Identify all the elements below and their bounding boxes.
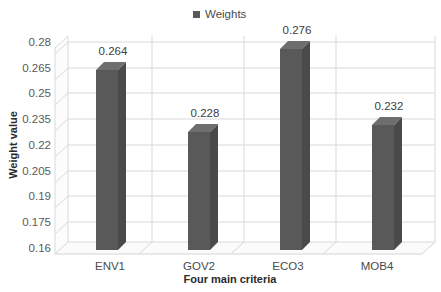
- x-tick-label-gov2: GOV2: [183, 260, 215, 272]
- y-tick-label: 0.205: [22, 165, 51, 177]
- legend[interactable]: Weights: [193, 8, 247, 20]
- y-tick-label: 0.25: [29, 87, 51, 99]
- bar-env1[interactable]: [96, 62, 126, 250]
- x-tick-label-env1: ENV1: [95, 260, 125, 272]
- y-axis-title: Weight value: [7, 111, 19, 179]
- bar-mob4[interactable]: [372, 117, 402, 250]
- bar-front-face: [96, 70, 118, 250]
- y-tick-label: 0.19: [29, 190, 51, 202]
- bar-front-face: [372, 125, 394, 250]
- y-tick-label: 0.265: [22, 62, 51, 74]
- y-axis-tick-labels: 0.28 0.265 0.25 0.235 0.22 0.205 0.19 0.…: [22, 36, 51, 254]
- chart-canvas: 0.264 0.228 0.276 0.232 0.28 0.265 0.25 …: [0, 0, 441, 292]
- bar-gov2[interactable]: [188, 124, 218, 250]
- bar-front-face: [280, 49, 302, 250]
- x-axis-category-labels: ENV1 GOV2 ECO3 MOB4: [95, 260, 394, 272]
- bar-side-face: [210, 124, 218, 250]
- x-tick-label-mob4: MOB4: [361, 260, 394, 272]
- y-tick-label: 0.16: [29, 242, 51, 254]
- y-tick-label: 0.22: [29, 139, 51, 151]
- data-label-env1: 0.264: [99, 45, 128, 57]
- bar-front-face: [188, 132, 210, 250]
- data-label-eco3: 0.276: [283, 24, 312, 36]
- y-tick-label: 0.175: [22, 216, 51, 228]
- left-side-wall: [55, 36, 68, 254]
- y-tick-label: 0.235: [22, 113, 51, 125]
- bar-side-face: [302, 41, 310, 250]
- bar-eco3[interactable]: [280, 41, 310, 250]
- x-axis-title: Four main criteria: [184, 273, 278, 285]
- x-tick-label-eco3: ECO3: [272, 260, 303, 272]
- bar-chart: 0.264 0.228 0.276 0.232 0.28 0.265 0.25 …: [0, 0, 441, 292]
- square-marker-icon: [193, 11, 200, 18]
- data-label-mob4: 0.232: [375, 100, 404, 112]
- y-tick-label: 0.28: [29, 36, 51, 48]
- legend-label-weights: Weights: [205, 8, 247, 20]
- bar-side-face: [118, 62, 126, 250]
- bar-side-face: [394, 117, 402, 250]
- data-label-gov2: 0.228: [191, 107, 220, 119]
